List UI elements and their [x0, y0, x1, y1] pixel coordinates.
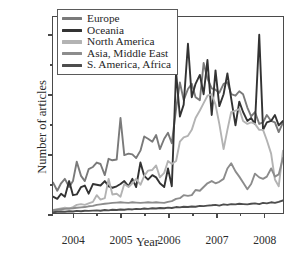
x-tick-minor [192, 213, 193, 216]
legend-color-swatch [62, 17, 82, 20]
x-tick-major [73, 213, 74, 218]
legend-color-swatch [62, 64, 82, 67]
y-tick-minor [50, 184, 53, 185]
legend-item-label: S. America, Africa [87, 59, 171, 71]
x-tick-minor [96, 213, 97, 216]
series-line [53, 158, 283, 210]
legend-item: Europe [62, 13, 171, 25]
x-tick-minor [240, 213, 241, 216]
legend-color-swatch [62, 52, 82, 55]
legend-color-swatch [62, 40, 82, 43]
legend-item: S. America, Africa [62, 59, 171, 71]
y-tick-major [48, 34, 53, 35]
y-tick-major [48, 154, 53, 155]
x-tick-label: 2005 [98, 235, 144, 247]
y-tick-major [48, 94, 53, 95]
legend-item-label: Europe [87, 13, 120, 25]
y-tick-major [48, 214, 53, 215]
y-tick-minor [50, 64, 53, 65]
x-tick-label: 2006 [146, 235, 192, 247]
x-tick-major [168, 213, 169, 218]
x-tick-major [264, 213, 265, 218]
x-tick-label: 2004 [50, 235, 96, 247]
x-tick-minor [144, 213, 145, 216]
x-tick-label: 2007 [194, 235, 240, 247]
legend: EuropeOceaniaNorth AmericaAsia, Middle E… [57, 9, 178, 75]
legend-color-swatch [62, 29, 82, 32]
figure-chart-articles-by-region: Number of articles Year 0400800120020042… [0, 0, 295, 254]
x-tick-major [120, 213, 121, 218]
y-tick-minor [50, 124, 53, 125]
x-tick-major [216, 213, 217, 218]
x-tick-label: 2008 [242, 235, 288, 247]
